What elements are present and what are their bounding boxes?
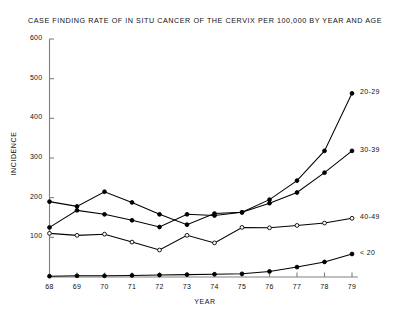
series-label-30-39: 30-39 <box>360 146 380 153</box>
data-point <box>295 191 299 195</box>
plot-area <box>0 0 410 318</box>
series-line-20-29 <box>50 93 353 224</box>
data-point <box>350 216 354 220</box>
y-axis-label: INCIDENCE <box>10 124 17 184</box>
data-point <box>323 260 327 264</box>
data-point <box>75 274 79 278</box>
x-tick-label: 70 <box>95 283 115 290</box>
x-tick-label: 76 <box>260 283 280 290</box>
data-point <box>213 214 217 218</box>
series-line-20 <box>50 254 353 276</box>
data-point <box>185 212 189 216</box>
y-tick-label: 400 <box>17 113 43 120</box>
data-point <box>268 270 272 274</box>
series-line-40-49 <box>50 218 353 250</box>
data-point <box>185 223 189 227</box>
data-point <box>158 248 162 252</box>
data-point <box>240 226 244 230</box>
data-point <box>75 204 79 208</box>
x-tick-label: 78 <box>315 283 335 290</box>
data-point <box>185 233 189 237</box>
data-point <box>103 190 107 194</box>
data-point <box>323 149 327 153</box>
data-point <box>130 201 134 205</box>
data-point <box>240 210 244 214</box>
data-point <box>48 226 52 230</box>
data-point <box>48 231 52 235</box>
data-point <box>350 149 354 153</box>
y-tick-label: 100 <box>17 232 43 239</box>
data-point <box>323 221 327 225</box>
x-tick-label: 74 <box>205 283 225 290</box>
y-tick-label: 300 <box>17 153 43 160</box>
data-point <box>268 226 272 230</box>
data-point <box>130 240 134 244</box>
data-point <box>295 224 299 228</box>
data-point <box>158 212 162 216</box>
data-point <box>240 272 244 276</box>
data-point <box>130 274 134 278</box>
data-point <box>213 272 217 276</box>
data-point <box>350 91 354 95</box>
data-point <box>158 273 162 277</box>
x-tick-label: 75 <box>232 283 252 290</box>
data-point <box>158 225 162 229</box>
data-point <box>75 233 79 237</box>
data-point <box>48 200 52 204</box>
x-tick-label: 68 <box>40 283 60 290</box>
x-axis-label: YEAR <box>0 298 410 305</box>
x-tick-label: 71 <box>122 283 142 290</box>
data-point <box>213 241 217 245</box>
series-label-20-29: 20-29 <box>360 88 380 95</box>
y-tick-label: 200 <box>17 193 43 200</box>
data-point <box>103 274 107 278</box>
data-point <box>130 218 134 222</box>
series-label-20: < 20 <box>360 249 375 256</box>
data-point <box>295 179 299 183</box>
data-point <box>323 171 327 175</box>
data-point <box>75 208 79 212</box>
data-point <box>48 274 52 278</box>
x-tick-label: 69 <box>67 283 87 290</box>
y-tick-label: 600 <box>17 34 43 41</box>
data-point <box>350 252 354 256</box>
y-tick-label: 500 <box>17 74 43 81</box>
x-tick-label: 73 <box>177 283 197 290</box>
data-point <box>103 212 107 216</box>
chart-figure: CASE FINDING RATE OF IN SITU CANCER OF T… <box>0 0 410 318</box>
series-line-30-39 <box>50 151 353 228</box>
data-point <box>268 201 272 205</box>
x-tick-label: 79 <box>342 283 362 290</box>
data-point <box>103 232 107 236</box>
data-point <box>295 265 299 269</box>
data-point <box>185 273 189 277</box>
x-tick-label: 77 <box>287 283 307 290</box>
series-label-40-49: 40-49 <box>360 213 380 220</box>
x-tick-label: 72 <box>150 283 170 290</box>
